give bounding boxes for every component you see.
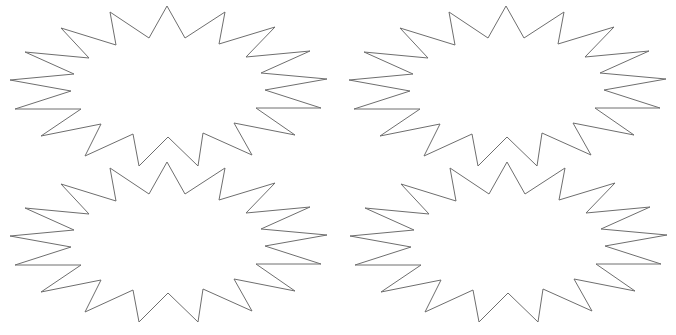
starburst-top-right	[349, 6, 666, 166]
starburst-top-left	[10, 6, 327, 166]
starburst-bottom-right	[350, 162, 667, 322]
starburst-bottom-left	[10, 162, 327, 322]
starburst-canvas	[0, 0, 676, 335]
